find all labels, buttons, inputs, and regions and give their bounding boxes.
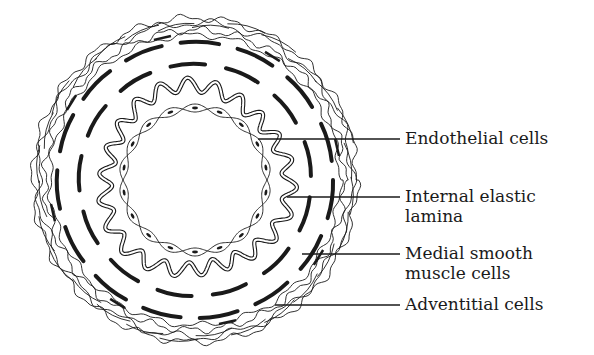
endothelium-layer [120,104,270,256]
label-internal-elastic-lamina: Internal elastic lamina [405,186,536,226]
label-adventitial-cells: Adventitial cells [405,294,543,314]
label-endothelial-cells: Endothelial cells [405,128,548,148]
label-medial-smooth-muscle-cells: Medial smooth muscle cells [405,243,533,283]
